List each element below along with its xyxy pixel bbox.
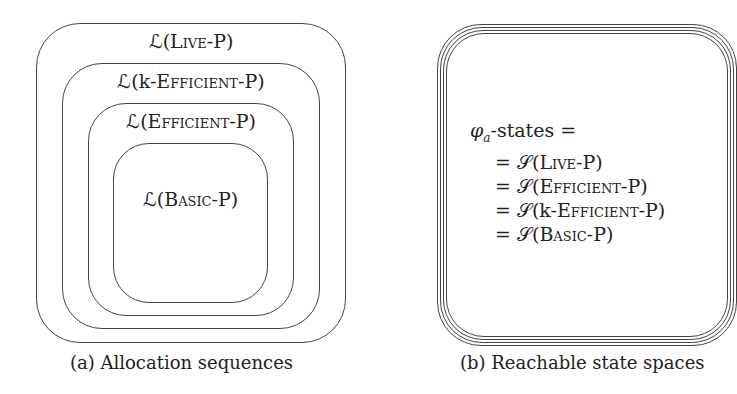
- label-k-efficient: ℒ(k-Efficient-P): [62, 70, 320, 92]
- eq-live: = 𝒮(Live-P): [470, 150, 665, 174]
- eq-basic: = 𝒮(Basic-P): [470, 222, 665, 246]
- eq-efficient: = 𝒮(Efficient-P): [470, 174, 665, 198]
- label-efficient: ℒ(Efficient-P): [88, 110, 294, 132]
- states-heading: φa-states =: [470, 118, 665, 150]
- label-live: ℒ(Live-P): [36, 30, 346, 52]
- caption-b: (b) Reachable state spaces: [460, 352, 705, 373]
- state-equalities: φa-states = = 𝒮(Live-P) = 𝒮(Efficient-P)…: [470, 118, 665, 246]
- eq-k-efficient: = 𝒮(k-Efficient-P): [470, 198, 665, 222]
- caption-a: (a) Allocation sequences: [70, 352, 293, 373]
- label-basic: ℒ(Basic-P): [113, 188, 268, 210]
- set-basic-box: [113, 143, 268, 303]
